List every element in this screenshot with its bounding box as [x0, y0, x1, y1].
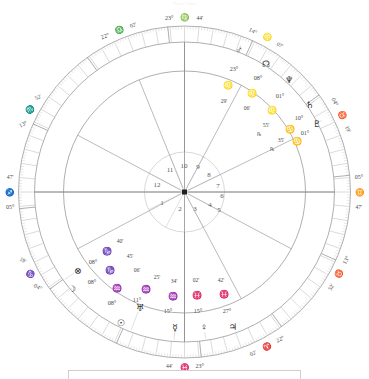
wheel-graphics [0, 0, 369, 379]
planet-pointer-lines [65, 45, 321, 339]
chart-footer-panel [68, 370, 301, 379]
natal-chart-wheel: Natal Chart 22°♎02'23°♍44'14°♌07'04°♉19'… [0, 0, 369, 379]
chart-center-hub [182, 190, 187, 195]
